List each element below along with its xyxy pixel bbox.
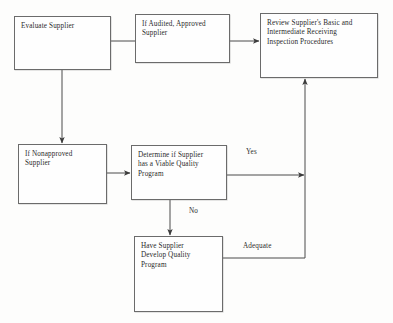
node-evaluate-supplier[interactable]: Evaluate Supplier xyxy=(14,16,111,70)
edge-label-adequate: Adequate xyxy=(243,242,272,251)
node-have-supplier-develop-quality-program[interactable]: Have Supplier Develop Quality Program xyxy=(134,236,223,312)
node-if-nonapproved-supplier[interactable]: If Nonapproved Supplier xyxy=(18,144,107,204)
node-if-audited-approved-supplier[interactable]: If Audited, Approved Supplier xyxy=(135,14,230,63)
edge-label-no: No xyxy=(189,207,198,216)
node-determine-viable-quality-program-label: Determine if Supplier has a Viable Quali… xyxy=(132,146,226,179)
node-review-supplier-procedures[interactable]: Review Supplier's Basic and Intermediate… xyxy=(260,13,378,78)
flowchart-canvas: Evaluate Supplier If Audited, Approved S… xyxy=(0,0,393,323)
node-review-supplier-procedures-label: Review Supplier's Basic and Intermediate… xyxy=(261,14,377,47)
node-if-nonapproved-supplier-label: If Nonapproved Supplier xyxy=(19,145,106,169)
node-determine-viable-quality-program[interactable]: Determine if Supplier has a Viable Quali… xyxy=(131,145,227,200)
node-if-audited-approved-supplier-label: If Audited, Approved Supplier xyxy=(136,15,229,39)
node-evaluate-supplier-label: Evaluate Supplier xyxy=(15,17,110,31)
node-have-supplier-develop-quality-program-label: Have Supplier Develop Quality Program xyxy=(135,237,222,270)
edge-label-yes: Yes xyxy=(246,148,257,157)
